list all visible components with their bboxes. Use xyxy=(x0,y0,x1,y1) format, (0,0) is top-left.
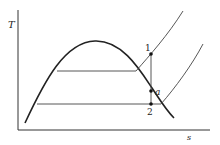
point-1-label: 1 xyxy=(145,43,151,53)
x-axis-label: s xyxy=(187,133,191,142)
upper-isobar-curve xyxy=(136,11,183,71)
y-axis-label: T xyxy=(8,19,16,30)
point-a-marker xyxy=(149,89,153,93)
point-2-label: 2 xyxy=(147,107,153,117)
lower-isobar-curve xyxy=(161,44,203,104)
diagram-svg: T s 1 a 2 xyxy=(0,0,220,145)
point-a-label: a xyxy=(155,87,160,97)
ts-diagram: T s 1 a 2 xyxy=(0,0,220,145)
point-2-marker xyxy=(149,102,153,106)
